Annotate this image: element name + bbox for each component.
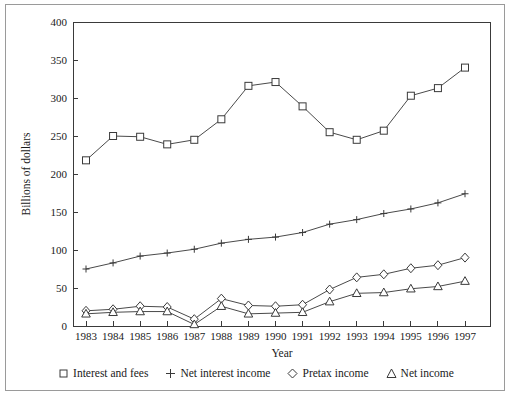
x-tick-label: 1989	[237, 330, 260, 342]
marker-square	[462, 64, 469, 71]
x-axis-tick-labels: 1983198419851986198719881989199019911992…	[75, 330, 477, 342]
series-polyline	[86, 194, 465, 269]
legend-item-label: Net income	[401, 368, 454, 380]
marker-square	[272, 79, 279, 86]
marker-triangle	[271, 309, 280, 317]
marker-diamond	[380, 270, 388, 279]
marker-diamond	[326, 285, 334, 294]
x-tick-label: 1984	[102, 330, 125, 342]
plot-area-frame	[73, 22, 490, 326]
marker-square	[245, 82, 252, 89]
legend-item: Interest and fees	[58, 368, 148, 380]
x-tick-label: 1983	[75, 330, 98, 342]
marker-triangle	[352, 289, 361, 297]
x-tick-label: 1992	[319, 330, 341, 342]
x-tick-label: 1985	[129, 330, 152, 342]
y-tick-label: 250	[51, 130, 68, 142]
legend-item: Net interest income	[165, 368, 270, 380]
y-tick-label: 0	[62, 320, 68, 332]
series-net-interest-income	[83, 190, 469, 272]
x-tick-label: 1991	[292, 330, 314, 342]
legend-item: Net income	[386, 368, 454, 380]
marker-triangle	[136, 307, 145, 315]
x-tick-label: 1996	[427, 330, 450, 342]
x-axis-ticks	[86, 321, 465, 326]
triangle-marker-icon	[386, 368, 397, 379]
y-tick-label: 100	[51, 244, 68, 256]
marker-square	[218, 116, 225, 123]
x-tick-label: 1995	[400, 330, 423, 342]
marker-diamond	[407, 264, 415, 273]
x-tick-label: 1986	[156, 330, 179, 342]
y-axis-tick-labels: 050100150200250300350400	[51, 16, 68, 332]
marker-square	[191, 136, 198, 143]
legend-item-label: Net interest income	[180, 368, 270, 380]
y-tick-label: 200	[51, 168, 68, 180]
marker-triangle	[461, 277, 470, 285]
x-tick-label: 1987	[183, 330, 206, 342]
y-axis-title: Billions of dollars	[20, 132, 32, 216]
chart-figure: 050100150200250300350400 198319841985198…	[0, 0, 512, 397]
marker-diamond	[353, 273, 361, 282]
marker-square	[380, 127, 387, 134]
y-tick-label: 50	[56, 282, 68, 294]
series-interest-and-fees	[83, 64, 469, 164]
marker-triangle	[217, 302, 226, 310]
y-tick-label: 400	[51, 16, 68, 28]
x-tick-label: 1993	[346, 330, 369, 342]
chart-legend: Interest and feesNet interest incomePret…	[22, 368, 490, 380]
line-chart-plot: 050100150200250300350400 198319841985198…	[0, 0, 512, 397]
marker-square	[164, 141, 171, 148]
marker-diamond	[461, 253, 469, 262]
marker-square	[434, 85, 441, 92]
plot-border	[73, 22, 490, 326]
square-marker-icon	[58, 368, 69, 379]
legend-item-label: Pretax income	[302, 368, 368, 380]
x-axis-title: Year	[271, 347, 292, 359]
marker-square	[299, 103, 306, 110]
x-tick-label: 1988	[210, 330, 233, 342]
marker-square	[407, 92, 414, 99]
marker-triangle	[190, 320, 199, 328]
marker-square	[326, 129, 333, 136]
y-tick-label: 150	[51, 206, 68, 218]
x-tick-label: 1994	[373, 330, 396, 342]
y-tick-label: 350	[51, 54, 68, 66]
diamond-marker-icon	[287, 368, 298, 379]
marker-square	[137, 133, 144, 140]
legend-item: Pretax income	[287, 368, 368, 380]
y-tick-label: 300	[51, 92, 68, 104]
marker-square	[353, 136, 360, 143]
y-axis-ticks	[73, 22, 78, 326]
marker-square	[83, 157, 90, 164]
x-tick-label: 1997	[454, 330, 477, 342]
legend-item-label: Interest and fees	[73, 368, 148, 380]
plus-marker-icon	[165, 368, 176, 379]
x-tick-label: 1990	[265, 330, 288, 342]
data-series-group	[82, 64, 470, 328]
marker-square	[110, 133, 117, 140]
marker-diamond	[434, 261, 442, 270]
